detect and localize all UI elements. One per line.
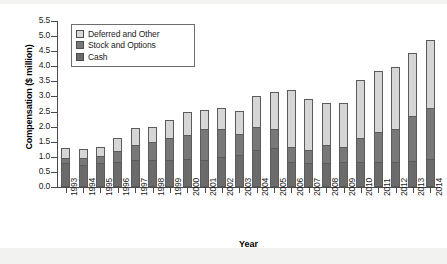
y-axis-tick	[51, 187, 57, 188]
y-axis-tick-label: 5.5	[6, 16, 50, 25]
bar-segment	[322, 103, 331, 146]
legend-swatch-icon	[76, 30, 84, 38]
y-axis-tick-label: 5.0	[6, 31, 50, 40]
bar-segment	[79, 158, 88, 166]
y-axis-tick-label: 0.0	[6, 182, 50, 191]
legend-item-label: Stock and Options	[88, 40, 156, 50]
x-axis-tick	[187, 188, 188, 193]
bar-segment	[270, 148, 279, 187]
x-axis-tick	[291, 188, 292, 193]
bar-segment	[287, 162, 296, 187]
bar-segment	[113, 162, 122, 187]
legend-item: Cash	[76, 51, 190, 62]
bar-segment	[252, 150, 261, 187]
bar-segment	[79, 165, 88, 187]
bar-stack	[356, 21, 365, 187]
bar-segment	[426, 159, 435, 187]
bar-segment	[235, 155, 244, 187]
bar-stack	[270, 21, 279, 187]
bar-segment	[270, 92, 279, 130]
bar-segment	[131, 160, 140, 187]
bar-segment	[408, 53, 417, 117]
bar-segment	[131, 145, 140, 160]
bar-stack	[426, 21, 435, 187]
bar-segment	[426, 108, 435, 161]
x-axis-tick	[413, 188, 414, 193]
bar-stack	[217, 21, 226, 187]
bar-segment	[165, 120, 174, 139]
x-axis-tick	[430, 188, 431, 193]
bar-segment	[374, 132, 383, 163]
legend-swatch-icon	[76, 41, 84, 49]
x-axis-tick	[309, 188, 310, 193]
bar-segment	[408, 116, 417, 162]
x-axis-tick	[153, 188, 154, 193]
bar-segment	[356, 162, 365, 187]
y-axis-tick-label: 2.0	[6, 122, 50, 131]
bar-segment	[183, 135, 192, 160]
bar-segment	[79, 149, 88, 159]
x-axis-tick	[66, 188, 67, 193]
x-axis-tick	[205, 188, 206, 193]
bar-segment	[200, 110, 209, 130]
y-axis-tick-label: 0.5	[6, 167, 50, 176]
bar-segment	[183, 159, 192, 187]
bar-segment	[356, 80, 365, 139]
bar-segment	[322, 163, 331, 187]
bar-segment	[235, 111, 244, 135]
bar-stack	[408, 21, 417, 187]
bar-segment	[339, 103, 348, 148]
bar-segment	[322, 145, 331, 164]
bar-segment	[165, 138, 174, 161]
bar-stack	[391, 21, 400, 187]
x-axis-tick	[83, 188, 84, 193]
x-axis-tick	[344, 188, 345, 193]
bar-segment	[391, 67, 400, 130]
bar-stack	[200, 21, 209, 187]
bar-segment	[304, 163, 313, 187]
scan-edge-top	[0, 0, 447, 4]
bar-segment	[374, 71, 383, 133]
bar-segment	[61, 163, 70, 187]
bar-segment	[391, 162, 400, 187]
bar-segment	[131, 128, 140, 146]
x-axis-tick	[222, 188, 223, 193]
bar-segment	[356, 138, 365, 163]
bar-segment	[304, 150, 313, 165]
bar-segment	[235, 134, 244, 156]
bar-segment	[217, 129, 226, 158]
bar-segment	[148, 142, 157, 162]
bar-segment	[252, 96, 261, 128]
bar-stack	[339, 21, 348, 187]
bar-segment	[217, 108, 226, 130]
bar-stack	[287, 21, 296, 187]
bar-segment	[408, 161, 417, 187]
bar-stack	[304, 21, 313, 187]
bar-segment	[113, 151, 122, 163]
bar-segment	[339, 147, 348, 164]
scan-edge-bottom	[0, 248, 447, 264]
bar-segment	[270, 129, 279, 149]
y-axis-tick-label: 3.0	[6, 91, 50, 100]
bar-segment	[391, 129, 400, 163]
x-axis-tick	[257, 188, 258, 193]
legend-item: Deferred and Other	[76, 28, 190, 39]
y-axis-tick-label: 1.5	[6, 137, 50, 146]
bar-segment	[252, 127, 261, 151]
bar-segment	[339, 162, 348, 187]
x-axis-title: Year	[57, 239, 440, 249]
x-axis-tick	[396, 188, 397, 193]
x-axis-tick	[378, 188, 379, 193]
bar-segment	[96, 163, 105, 187]
bar-stack	[374, 21, 383, 187]
y-axis-tick-label: 1.0	[6, 152, 50, 161]
x-axis-tick	[239, 188, 240, 193]
x-axis-tick	[326, 188, 327, 193]
x-axis-tick	[118, 188, 119, 193]
bar-segment	[426, 40, 435, 109]
bar-segment	[61, 148, 70, 158]
bar-stack	[235, 21, 244, 187]
legend-item-label: Cash	[88, 52, 107, 62]
y-axis-tick-label: 4.5	[6, 46, 50, 55]
legend-item-label: Deferred and Other	[88, 29, 159, 39]
